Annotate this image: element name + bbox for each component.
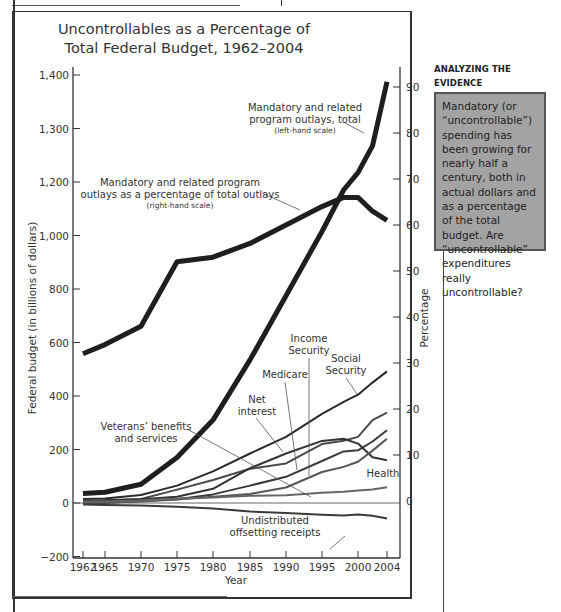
y-tick-label-right: 60: [406, 219, 419, 231]
chart-annotations: Mandatory and related program outlays, t…: [26, 102, 430, 586]
y-tick-label-left: 400: [49, 390, 69, 402]
y-tick-label-left: 200: [49, 444, 69, 456]
y-tick-label-left: 1,300: [39, 123, 69, 135]
y-tick-label-right: 50: [406, 265, 419, 277]
label-total-line3: (left-hand scale): [274, 126, 335, 135]
series-mandatory-and-related-program-outlays-as: [83, 197, 387, 353]
y-tick-label-left: 0: [62, 497, 69, 509]
y-tick-label-right: 30: [406, 357, 419, 369]
x-tick-label: 1995: [309, 561, 336, 573]
x-tick-label: 1965: [92, 561, 119, 573]
x-tick-label: 1990: [273, 561, 300, 573]
leader-net-interest: [256, 418, 283, 452]
y-tick-label-left: 1,400: [39, 69, 69, 81]
label-income-security-1: Income: [291, 333, 328, 344]
label-net-interest-2: interest: [238, 406, 276, 417]
label-net-interest-1: Net: [248, 394, 266, 405]
x-tick-label: 2004: [374, 561, 401, 573]
y-tick-label-right: 80: [406, 127, 419, 139]
label-undistributed-1: Undistributed: [241, 515, 309, 526]
y-tick-label-left: 1,200: [39, 176, 69, 188]
y-tick-label-right: 20: [406, 403, 419, 415]
y-tick-label-left: 600: [49, 337, 69, 349]
y-axis-title-right: Percentage: [418, 288, 430, 347]
x-tick-label: 1975: [164, 561, 191, 573]
y-tick-label-left: −200: [40, 551, 69, 563]
label-pct-line1: Mandatory and related program: [100, 177, 260, 188]
y-tick-label-right: 90: [406, 81, 419, 93]
y-tick-label-left: 800: [49, 283, 69, 295]
line-chart: 1,4001,3001,2001,0008006004002000−200196…: [0, 0, 561, 612]
leader-medicare: [285, 382, 297, 470]
leader-social-security: [346, 378, 357, 394]
label-pct-line3: (right-hand scale): [147, 201, 214, 210]
chart-series: [83, 82, 387, 519]
label-veterans-2: and services: [114, 433, 177, 444]
series-undistributed-offsetting-receipts: [83, 505, 387, 519]
label-total-line2: program outlays, total: [249, 114, 361, 125]
x-axis-title: Year: [224, 574, 248, 586]
leader-undistributed: [330, 536, 345, 549]
label-social-security-1: Social: [331, 353, 361, 364]
y-tick-label-left: 1,000: [39, 230, 69, 242]
label-health: Health: [367, 468, 400, 479]
y-tick-label-right: 10: [406, 449, 419, 461]
x-tick-label: 1970: [128, 561, 155, 573]
label-income-security-2: Security: [288, 345, 329, 356]
x-tick-label: 1985: [237, 561, 264, 573]
label-social-security-2: Security: [325, 365, 366, 376]
y-axis-title-left: Federal budget (in billions of dollars): [26, 222, 38, 415]
x-tick-label: 2000: [345, 561, 372, 573]
series-health: [83, 439, 387, 503]
y-tick-label-right: 70: [406, 173, 419, 185]
label-veterans-1: Veterans’ benefits: [101, 421, 192, 432]
label-total-line1: Mandatory and related: [248, 102, 362, 113]
x-tick-label: 1980: [200, 561, 227, 573]
y-tick-label-right: 0: [406, 495, 413, 507]
label-undistributed-2: offsetting receipts: [230, 527, 321, 538]
label-medicare: Medicare: [262, 369, 308, 380]
label-pct-line2: outlays as a percentage of total outlays: [81, 189, 280, 200]
